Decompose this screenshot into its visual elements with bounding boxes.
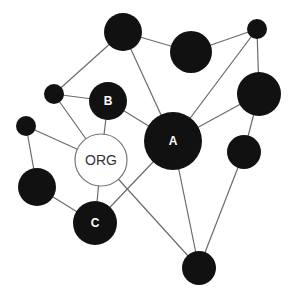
node-n3: [247, 19, 267, 39]
node-label: B: [104, 94, 113, 108]
node-label: A: [169, 134, 178, 148]
edge-n7-n9: [199, 152, 244, 268]
node-c: C: [73, 201, 117, 245]
node-circle: [247, 19, 267, 39]
node-b: B: [89, 82, 127, 120]
node-a: A: [144, 112, 202, 170]
node-n1: [104, 13, 142, 51]
node-circle: [227, 135, 261, 169]
node-org: ORG: [75, 134, 127, 186]
node-n5: [237, 72, 281, 116]
network-diagram: BORGAC: [0, 0, 293, 295]
node-circle: [18, 168, 56, 206]
node-circle: [237, 72, 281, 116]
node-label: ORG: [85, 152, 117, 168]
node-circle: [104, 13, 142, 51]
node-n8: [18, 168, 56, 206]
node-circle: [170, 31, 212, 73]
node-label: C: [91, 216, 100, 230]
node-n7: [227, 135, 261, 169]
node-circle: [182, 251, 216, 285]
node-n9: [182, 251, 216, 285]
edge-layer: [26, 29, 259, 268]
node-circle: [16, 116, 36, 136]
node-n2: [170, 31, 212, 73]
node-circle: [44, 84, 64, 104]
node-n4: [44, 84, 64, 104]
node-n6: [16, 116, 36, 136]
node-layer: BORGAC: [16, 13, 281, 285]
